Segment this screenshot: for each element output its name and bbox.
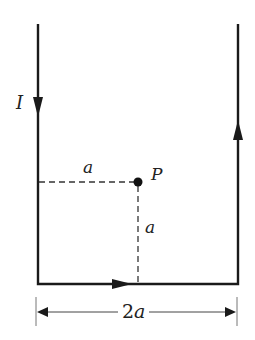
current-arrow-up-icon — [233, 120, 243, 140]
current-loop-diagram: I P a a 2a — [0, 0, 255, 340]
diagram-canvas — [0, 0, 255, 340]
current-arrow-right-icon — [112, 279, 132, 289]
dimension-arrow-left-icon — [37, 307, 48, 317]
vertical-distance-label: a — [145, 219, 155, 236]
horizontal-distance-label: a — [83, 159, 93, 176]
point-p-dot — [134, 178, 143, 187]
width-variable: a — [134, 300, 145, 322]
dimension-arrow-right-icon — [225, 307, 236, 317]
current-label: I — [16, 94, 23, 112]
u-shaped-wire — [38, 24, 238, 284]
width-coefficient: 2 — [122, 300, 134, 322]
current-arrow-down-icon — [33, 97, 43, 117]
width-label: 2a — [118, 302, 149, 321]
point-p-label: P — [151, 166, 162, 183]
